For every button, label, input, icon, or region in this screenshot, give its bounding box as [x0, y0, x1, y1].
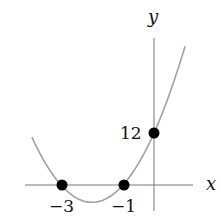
- x-axis-label: x: [206, 173, 216, 194]
- point-root-minus-3: [57, 180, 68, 191]
- label-minus-3: −3: [49, 196, 74, 216]
- point-root-minus-1: [119, 180, 130, 191]
- y-axis-label: y: [147, 6, 159, 27]
- parabola-curve: [32, 46, 185, 202]
- parabola-chart: −3 −1 12 x y: [0, 0, 221, 216]
- label-12: 12: [120, 123, 142, 143]
- point-y-intercept: [149, 128, 160, 139]
- label-minus-1: −1: [111, 196, 136, 216]
